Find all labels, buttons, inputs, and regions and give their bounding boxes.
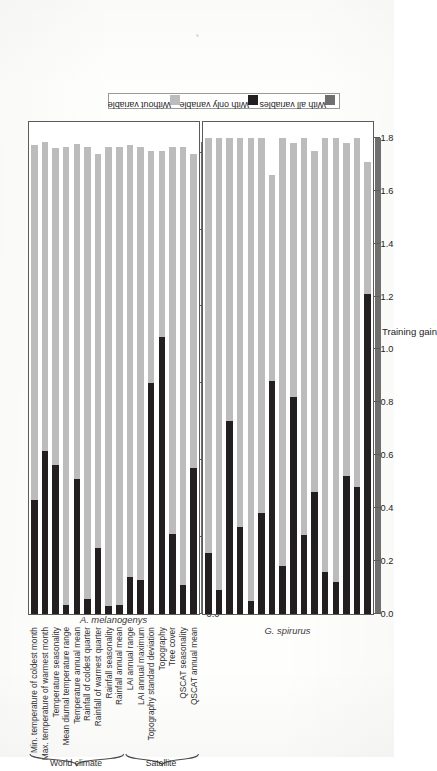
legend-item: Without variable xyxy=(109,92,186,108)
bar-with-only-variable xyxy=(73,478,80,613)
bar-with-only-variable xyxy=(258,513,265,614)
bar-with-only-variable xyxy=(332,582,339,614)
axis-tick-label: 1.2 xyxy=(376,291,398,301)
bar-group xyxy=(332,122,339,614)
bar-group xyxy=(321,122,328,614)
bar-group xyxy=(41,122,48,614)
bar-without-variable xyxy=(247,137,254,613)
bar-with-only-variable xyxy=(62,604,69,613)
bar-with-only-variable xyxy=(279,566,286,614)
bar-with-only-variable xyxy=(94,547,101,613)
bar-with-only-variable xyxy=(236,526,243,613)
legend-label: With only variable xyxy=(179,100,248,110)
panel-a-melanogenys xyxy=(28,121,200,615)
bar-without-variable xyxy=(321,137,328,613)
bar-without-variable xyxy=(215,137,222,613)
legend-swatch xyxy=(170,95,180,105)
bar-with-only-variable xyxy=(353,487,360,614)
plot-area-bottom xyxy=(203,122,373,614)
plot-area-top xyxy=(29,122,199,614)
bar-group xyxy=(179,122,186,614)
bar-group xyxy=(353,122,360,614)
bar-with-only-variable xyxy=(290,397,297,614)
bar-group xyxy=(126,122,133,614)
bar-group xyxy=(147,122,154,614)
axis-tick-label: 0.2 xyxy=(376,556,398,566)
bar-group xyxy=(268,122,275,614)
bar-group xyxy=(311,122,318,614)
bar-with-only-variable xyxy=(179,584,186,613)
bar-without-variable xyxy=(105,146,112,613)
bar-with-only-variable xyxy=(52,464,59,613)
group-brace-column: World climateSatellite xyxy=(16,615,410,771)
bar-group xyxy=(94,122,101,614)
bar-group xyxy=(190,122,197,614)
axis-tick-label: 0.6 xyxy=(376,450,398,460)
axis-tick-label: 1.8 xyxy=(376,132,398,142)
figure-stage: Min. temperature of coldest monthMax. te… xyxy=(16,16,410,771)
bar-with-only-variable xyxy=(137,580,144,614)
bar-with-only-variable xyxy=(41,451,48,614)
bar-with-only-variable xyxy=(247,600,254,613)
axis-tick-label: 0.0 xyxy=(376,609,398,619)
bar-with-only-variable xyxy=(364,293,371,613)
legend-item: With all variables xyxy=(263,92,340,108)
axis-tick-label: 0.4 xyxy=(376,503,398,513)
bar-with-only-variable xyxy=(190,467,197,613)
panel-title-g-spirurus: G. spirurus xyxy=(264,624,310,635)
group-brace-satellite-label: Satellite xyxy=(132,758,188,768)
bar-group xyxy=(137,122,144,614)
bar-with-only-variable xyxy=(169,534,176,614)
bar-with-only-variable xyxy=(205,553,212,614)
bar-group xyxy=(158,122,165,614)
bar-with-only-variable xyxy=(116,604,123,613)
bar-with-only-variable xyxy=(126,577,133,614)
bar-group xyxy=(290,122,297,614)
bar-group xyxy=(279,122,286,614)
bar-without-variable xyxy=(179,146,186,613)
bar-group xyxy=(73,122,80,614)
bar-group xyxy=(62,122,69,614)
bar-group xyxy=(84,122,91,614)
bar-with-only-variable xyxy=(268,381,275,614)
legend-label: Without variable xyxy=(108,100,171,110)
bar-with-only-variable xyxy=(105,606,112,614)
jackknife-figure: Min. temperature of coldest monthMax. te… xyxy=(16,16,410,771)
bar-without-variable xyxy=(126,145,133,614)
bar-with-only-variable xyxy=(343,476,350,614)
bar-group xyxy=(300,122,307,614)
bar-group xyxy=(247,122,254,614)
legend: Without variableWith only variableWith a… xyxy=(108,93,340,109)
bar-group xyxy=(169,122,176,614)
axis-title-bottom: Training gain xyxy=(381,326,436,337)
legend-item: With only variable xyxy=(186,92,263,108)
bar-without-variable xyxy=(116,146,123,613)
bar-without-variable xyxy=(332,137,339,613)
bar-group xyxy=(364,122,371,614)
bar-with-only-variable xyxy=(31,500,38,614)
bar-group xyxy=(343,122,350,614)
bar-group xyxy=(105,122,112,614)
panel-g-spirurus xyxy=(202,121,374,615)
bar-with-only-variable xyxy=(321,571,328,613)
bar-with-only-variable xyxy=(226,420,233,613)
bar-group xyxy=(236,122,243,614)
bar-group xyxy=(31,122,38,614)
bar-without-variable xyxy=(62,146,69,613)
bar-group xyxy=(205,122,212,614)
bar-without-variable xyxy=(279,137,286,613)
bar-with-only-variable xyxy=(158,337,165,614)
bar-with-only-variable xyxy=(84,598,91,613)
bar-with-only-variable xyxy=(300,534,307,613)
bar-with-only-variable xyxy=(215,590,222,614)
axis-tick-label: 0.8 xyxy=(376,397,398,407)
panel-title-a-melanogenys: A. melanogenys xyxy=(79,613,146,624)
axis-tick-label: 1.4 xyxy=(376,238,398,248)
bar-without-variable xyxy=(94,154,101,614)
bar-without-variable xyxy=(205,137,212,613)
group-brace-world-climate-label: World climate xyxy=(47,758,103,768)
axis-tick-label: 1.6 xyxy=(376,185,398,195)
bar-group xyxy=(258,122,265,614)
legend-label: With all variables xyxy=(259,100,326,110)
bar-group xyxy=(116,122,123,614)
